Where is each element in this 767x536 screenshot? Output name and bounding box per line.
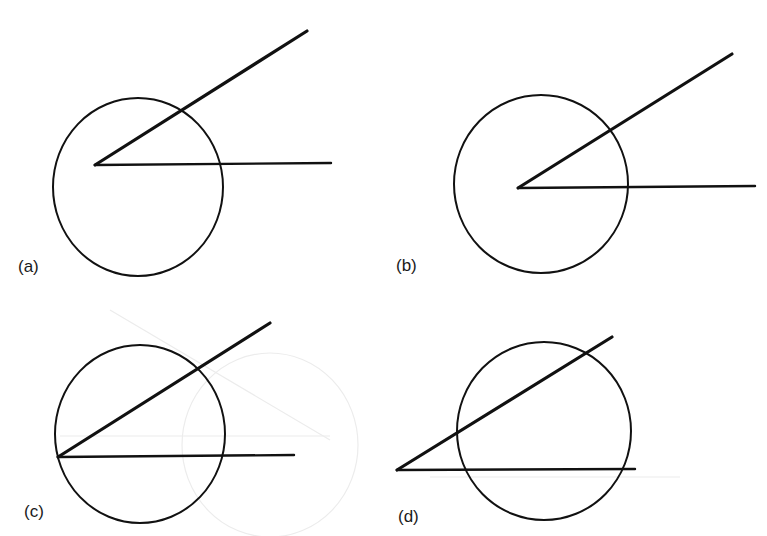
panel-c xyxy=(55,323,294,523)
panel-label-a: (a) xyxy=(18,257,39,277)
circle xyxy=(53,98,223,276)
panel-label-d: (d) xyxy=(398,507,419,527)
panel-label-b: (b) xyxy=(396,256,417,276)
circle xyxy=(454,95,628,273)
panel-b xyxy=(454,54,755,273)
horizontal-ray xyxy=(58,455,294,457)
horizontal-ray xyxy=(95,163,331,165)
horizontal-ray xyxy=(397,469,635,470)
panel-d xyxy=(397,337,635,520)
upper-ray xyxy=(58,323,270,457)
horizontal-ray xyxy=(518,186,755,188)
upper-ray xyxy=(397,337,612,470)
circle xyxy=(457,342,631,520)
panel-a xyxy=(53,31,331,276)
circle xyxy=(55,345,225,523)
ghost-marks xyxy=(60,310,680,536)
ghost-line xyxy=(110,310,330,440)
upper-ray xyxy=(518,54,732,188)
panel-label-c: (c) xyxy=(24,502,44,522)
angle-circle-figure xyxy=(0,0,767,536)
